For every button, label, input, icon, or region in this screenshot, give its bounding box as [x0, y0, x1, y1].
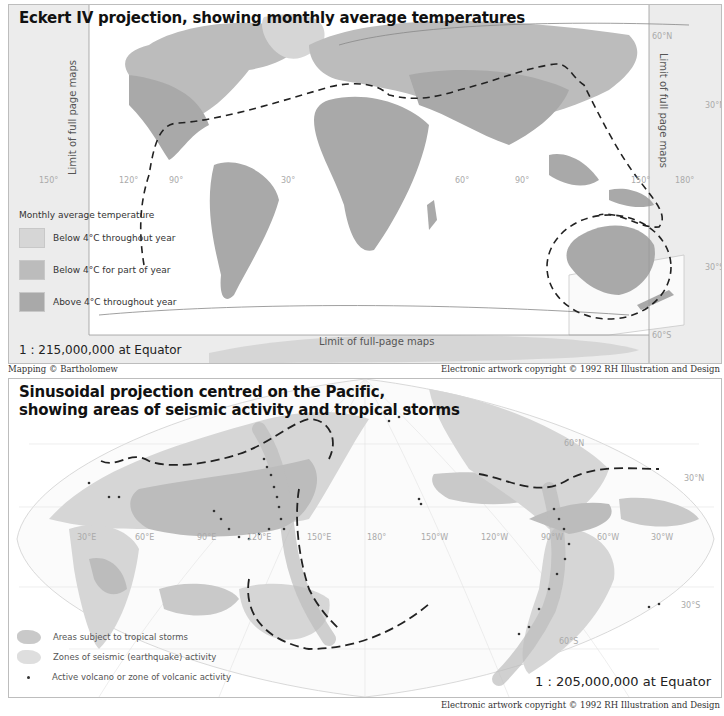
eckert-map-panel: Eckert IV projection, showing monthly av…: [8, 4, 722, 364]
latitude-tick: 60°N: [652, 32, 672, 41]
tropical-storm-icon: [17, 630, 41, 644]
legend-item: Below 4°C throughout year: [19, 228, 177, 248]
longitude-tick: 150°: [631, 176, 650, 185]
longitude-tick: 60°W: [597, 533, 619, 542]
sinusoidal-title-line2: showing areas of seismic activity and tr…: [19, 401, 460, 419]
sinusoidal-title-line1: Sinusoidal projection centred on the Pac…: [19, 383, 460, 401]
latitude-tick: 60°S: [652, 331, 671, 340]
latitude-tick: 30°S: [681, 601, 700, 610]
latitude-tick: 30°N: [684, 474, 704, 483]
legend-item: Above 4°C throughout year: [19, 292, 177, 312]
legend-label: Below 4°C for part of year: [53, 265, 170, 275]
legend-label: Zones of seismic (earthquake) activity: [53, 652, 216, 662]
latitude-tick: 30°S: [705, 263, 722, 272]
longitude-tick: 120°W: [481, 533, 508, 542]
legend-label: Areas subject to tropical storms: [53, 632, 188, 642]
longitude-tick: 150°W: [421, 533, 448, 542]
legend-item: Active volcano or zone of volcanic activ…: [17, 667, 231, 687]
legend-label: Active volcano or zone of volcanic activ…: [52, 672, 231, 682]
longitude-tick: 30°W: [651, 533, 673, 542]
legend-label: Below 4°C throughout year: [53, 233, 175, 243]
longitude-tick: 60°E: [135, 533, 154, 542]
legend-title: Monthly average temperature: [19, 210, 177, 220]
legend-item: Zones of seismic (earthquake) activity: [17, 647, 231, 667]
longitude-tick: 180°: [675, 176, 694, 185]
longitude-tick: 150°E: [307, 533, 331, 542]
longitude-tick: 120°: [119, 176, 138, 185]
longitude-tick: 60°: [455, 176, 469, 185]
eckert-map-title: Eckert IV projection, showing monthly av…: [19, 9, 525, 27]
volcano-dot-icon: [27, 676, 30, 679]
latitude-tick: 60°N: [564, 439, 584, 448]
legend-item: Areas subject to tropical storms: [17, 627, 231, 647]
longitude-tick: 90°W: [541, 533, 563, 542]
latitude-tick: 30°N: [705, 101, 722, 110]
longitude-tick: 30°: [281, 176, 295, 185]
eckert-map-scale: 1 : 215,000,000 at Equator: [19, 343, 181, 357]
artwork-credit-top: Electronic artwork copyright © 1992 RH I…: [441, 364, 720, 374]
mapping-credit: Mapping © Bartholomew: [8, 364, 118, 374]
legend-label: Above 4°C throughout year: [53, 297, 177, 307]
latitude-tick: 60°S: [559, 637, 578, 646]
limit-label-bottom: Limit of full-page maps: [319, 336, 434, 347]
legend-swatch-below-4c-all-year: [19, 228, 45, 248]
longitude-tick: 30°E: [77, 533, 96, 542]
temperature-legend: Monthly average temperature Below 4°C th…: [19, 210, 177, 324]
longitude-tick: 90°E: [197, 533, 216, 542]
seismic-zone-icon: [17, 650, 41, 664]
longitude-tick: 180°: [367, 533, 386, 542]
sinusoidal-map-title: Sinusoidal projection centred on the Pac…: [19, 383, 460, 419]
longitude-tick: 0°: [345, 176, 354, 185]
longitude-tick: 150°: [39, 176, 58, 185]
longitude-tick: 90°: [515, 176, 529, 185]
legend-swatch-below-4c-part-year: [19, 260, 45, 280]
legend-item: Below 4°C for part of year: [19, 260, 177, 280]
longitude-tick: 90°: [169, 176, 183, 185]
legend-swatch-above-4c-all-year: [19, 292, 45, 312]
artwork-credit-bottom: Electronic artwork copyright © 1992 RH I…: [441, 700, 720, 710]
limit-label-right: Limit of full page maps: [658, 53, 669, 168]
sinusoidal-map-scale: 1 : 205,000,000 at Equator: [535, 674, 711, 689]
longitude-tick: 120°E: [247, 533, 271, 542]
sinusoidal-map-panel: Sinusoidal projection centred on the Pac…: [8, 378, 722, 698]
limit-label-left: Limit of full page maps: [67, 60, 78, 175]
hazard-legend: Areas subject to tropical storms Zones o…: [17, 627, 231, 687]
